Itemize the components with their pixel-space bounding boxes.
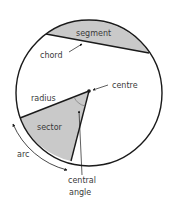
- circle-parts-diagram: segment chord centre radius sector arc c…: [0, 0, 179, 201]
- central-angle-label-line1: central: [68, 176, 96, 185]
- radius-label: radius: [31, 94, 56, 103]
- arc-label: arc: [17, 150, 29, 159]
- chord-pointer: [69, 44, 82, 52]
- centre-pointer: [93, 85, 108, 90]
- centre-point: [87, 89, 91, 93]
- segment-label: segment: [76, 29, 111, 38]
- central-angle-label-line2: angle: [69, 188, 91, 197]
- chord-label: chord: [40, 51, 63, 60]
- centre-label: centre: [112, 81, 138, 90]
- sector-label: sector: [37, 123, 63, 132]
